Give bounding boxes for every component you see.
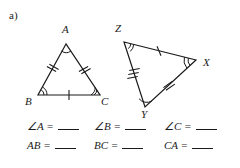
answer-row-sides: AB = BC = CA = xyxy=(0,139,240,158)
angle-arc-b-inner xyxy=(41,90,44,95)
angle-arc-c-outer xyxy=(91,87,95,95)
answer-label-side-ca: CA = xyxy=(164,139,188,151)
answer-item-angle-b[interactable]: ∠B = xyxy=(94,120,164,133)
angle-arc-z-inner xyxy=(128,44,130,49)
angle-arc-a xyxy=(62,51,72,53)
answer-blank-angle-a[interactable] xyxy=(58,128,79,130)
triangle-abc-group xyxy=(38,44,100,100)
answer-blank-side-ca[interactable] xyxy=(192,147,213,149)
angle-arc-x-inner xyxy=(188,58,190,65)
answer-row-angles: ∠A = ∠B = ∠C = xyxy=(0,120,240,139)
answer-label-angle-a: ∠A = xyxy=(27,120,54,133)
angle-arc-y xyxy=(139,99,152,103)
answer-blank-angle-b[interactable] xyxy=(125,128,146,130)
triangle-xyz-group xyxy=(124,42,196,107)
vertex-label-x: X xyxy=(203,57,210,68)
answer-item-angle-c[interactable]: ∠C = xyxy=(164,120,234,133)
answer-label-angle-c: ∠C = xyxy=(164,120,192,133)
answer-item-angle-a[interactable]: ∠A = xyxy=(27,120,94,133)
answer-item-side-ab[interactable]: AB = xyxy=(27,139,94,151)
answer-blank-side-ab[interactable] xyxy=(55,147,76,149)
answer-blank-side-bc[interactable] xyxy=(122,147,143,149)
tick-side-zy xyxy=(127,69,139,79)
angle-arc-x-outer xyxy=(184,57,187,68)
triangle-xyz-outline xyxy=(124,42,196,107)
vertex-label-y: Y xyxy=(141,109,147,120)
vertex-label-a: A xyxy=(62,24,69,35)
answer-label-angle-b: ∠B = xyxy=(94,120,121,133)
worksheet-page: a) xyxy=(0,0,240,168)
answers-section: ∠A = ∠B = ∠C = AB = BC = CA = xyxy=(0,120,240,158)
answer-label-side-ab: AB = xyxy=(27,139,51,151)
vertex-label-b: B xyxy=(25,96,32,107)
vertex-label-z: Z xyxy=(115,23,121,34)
answer-label-side-bc: BC = xyxy=(94,139,118,151)
vertex-label-c: C xyxy=(101,96,108,107)
answer-blank-angle-c[interactable] xyxy=(196,128,217,130)
answer-item-side-bc[interactable]: BC = xyxy=(94,139,164,151)
answer-item-side-ca[interactable]: CA = xyxy=(164,139,234,151)
